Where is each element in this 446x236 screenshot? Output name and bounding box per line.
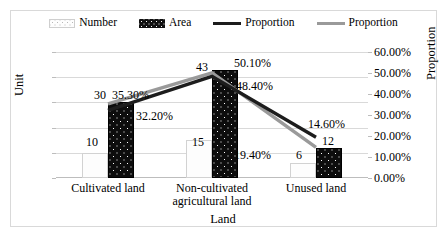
line-proportion-dark[interactable] [108,76,316,137]
data-label-area-cultivated: 30 [94,89,106,101]
tickmark-right-60 [368,52,372,53]
data-label-number-noncultivated: 15 [192,136,204,148]
x-category-label-unused: Unused land [256,182,376,195]
x-category-label-cultivated: Cultivated land [48,182,168,195]
bar-dotted-dark-icon [139,19,165,28]
legend-item-proportion-gray[interactable]: Proportion [317,17,398,29]
y2-tick-label-10: 10.00% [374,150,436,165]
x-category-label-cultivated-line1: Cultivated land [48,182,168,195]
data-label-proportion-dark-cultivated: 32.20% [136,110,173,122]
data-label-proportion-dark-unused: 19.40% [234,149,271,161]
chart-container: Number Area Proportion Proportion Unit P… [0,0,446,236]
data-label-proportion-gray-noncultivated: 50.10% [234,57,271,69]
data-label-area-noncultivated: 43 [196,61,208,73]
tickmark-right-10 [368,157,372,158]
tickmark-right-20 [368,136,372,137]
y2-tick-label-30: 30.00% [374,108,436,123]
bar-dotted-light-icon [49,19,75,28]
y2-tick-label-50: 50.00% [374,66,436,81]
data-label-number-unused: 6 [296,149,302,161]
data-label-area-unused: 12 [322,135,334,147]
legend-label-proportion-dark: Proportion [245,17,294,29]
legend-item-number[interactable]: Number [49,17,117,29]
tickmark-right-40 [368,94,372,95]
x-category-label-unused-line1: Unused land [256,182,376,195]
tickmark-right-0 [368,178,372,179]
x-category-label-noncultivated-line1: Non-cultivated [152,182,272,195]
x-category-label-noncultivated: Non-cultivated agricultural land [152,182,272,207]
data-label-proportion-gray-cultivated: 35.30% [112,89,149,101]
tickmark-left-0 [52,178,56,179]
line-gray-icon [317,22,345,25]
legend-label-proportion-gray: Proportion [349,17,398,29]
y2-tick-label-40: 40.00% [374,87,436,102]
y2-tick-label-60: 60.00% [374,45,436,60]
tickmark-right-50 [368,73,372,74]
tickmark-right-30 [368,115,372,116]
x-axis-title: Land [0,212,446,227]
plot-area: 50 40 30 20 10 0 60.00% 50.00% 40.00% 30… [56,52,368,178]
legend-item-proportion-dark[interactable]: Proportion [213,17,294,29]
data-label-proportion-gray-unused: 14.60% [308,118,345,130]
legend-item-area[interactable]: Area [139,17,191,29]
data-label-number-cultivated: 10 [86,136,98,148]
x-category-label-noncultivated-line2: agricultural land [152,195,272,208]
line-dark-icon [213,22,241,25]
legend-label-number: Number [79,17,117,29]
line-series-group [56,52,368,178]
legend-label-area: Area [169,17,191,29]
y2-tick-label-20: 20.00% [374,129,436,144]
y2-tick-label-0: 0.00% [374,171,436,186]
left-axis-title: Unit [12,74,27,96]
data-label-proportion-dark-noncultivated: 48.40% [236,80,273,92]
chart-legend: Number Area Proportion Proportion [10,10,437,36]
